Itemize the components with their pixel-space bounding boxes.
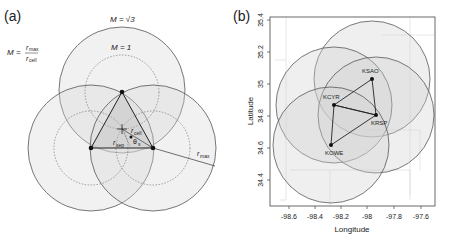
- plot-area: KSAO KCYR KRSP KOWE: [273, 17, 435, 206]
- svg-text:34.4: 34.4: [257, 173, 264, 187]
- m-sqrt3-label: M = √3: [110, 15, 135, 24]
- svg-text:cell: cell: [134, 130, 142, 136]
- panel-a: (a) M = √3 M = 1 M =: [4, 8, 216, 211]
- vertex-top: [120, 90, 125, 95]
- svg-text:35.4: 35.4: [257, 13, 264, 27]
- svg-text:-98: -98: [362, 213, 372, 220]
- x-ticks: [289, 206, 421, 209]
- panel-b-label: (b): [233, 8, 250, 24]
- svg-text:34.6: 34.6: [257, 141, 264, 155]
- panel-b: (b) KSAO KCYR K: [233, 8, 435, 234]
- label-ksao: KSAO: [362, 68, 379, 74]
- vertex-left: [89, 146, 94, 151]
- svg-text:sep: sep: [116, 142, 124, 148]
- svg-text:34.8: 34.8: [257, 109, 264, 123]
- svg-text:M =: M =: [7, 48, 21, 57]
- label-kcyr: KCYR: [323, 94, 340, 100]
- svg-text:cell: cell: [29, 57, 37, 63]
- x-axis-label: Longitude: [334, 225, 370, 234]
- svg-text:35.2: 35.2: [257, 45, 264, 59]
- svg-text:max: max: [200, 153, 210, 159]
- panel-a-label: (a): [4, 8, 21, 24]
- m-formula: M = r max r cell: [7, 44, 39, 63]
- y-ticks: [267, 20, 270, 180]
- svg-text:35: 35: [257, 80, 264, 88]
- svg-text:-98.6: -98.6: [281, 213, 297, 220]
- y-tick-labels: 35.4 35.2 35 34.8 34.6 34.4: [257, 13, 264, 187]
- svg-text:-98.2: -98.2: [333, 213, 349, 220]
- svg-text:-98.4: -98.4: [307, 213, 323, 220]
- y-axis-label: Latitude: [246, 96, 255, 125]
- figure: (a) M = √3 M = 1 M =: [0, 0, 456, 245]
- figure-svg: (a) M = √3 M = 1 M =: [0, 0, 456, 245]
- label-krsp: KRSP: [371, 120, 387, 126]
- x-tick-labels: -98.6 -98.4 -98.2 -98 -97.8 -97.6: [281, 213, 429, 220]
- svg-text:-97.6: -97.6: [413, 213, 429, 220]
- m-one-label: M = 1: [111, 43, 131, 52]
- svg-text:θ: θ: [133, 138, 137, 145]
- svg-text:-97.8: -97.8: [386, 213, 402, 220]
- label-kowe: KOWE: [325, 150, 343, 156]
- svg-text:max: max: [29, 46, 39, 52]
- vertex-right: [151, 146, 156, 151]
